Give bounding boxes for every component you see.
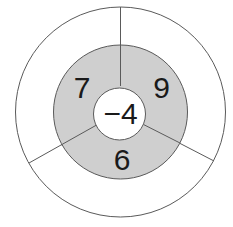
segment-bottom-value: 6: [114, 143, 131, 176]
center-value: −4: [103, 97, 137, 130]
segment-upper-left-value: 7: [74, 71, 91, 104]
segment-upper-right-value: 9: [153, 71, 170, 104]
number-wheel-diagram: 7 9 6 −4: [0, 0, 233, 227]
